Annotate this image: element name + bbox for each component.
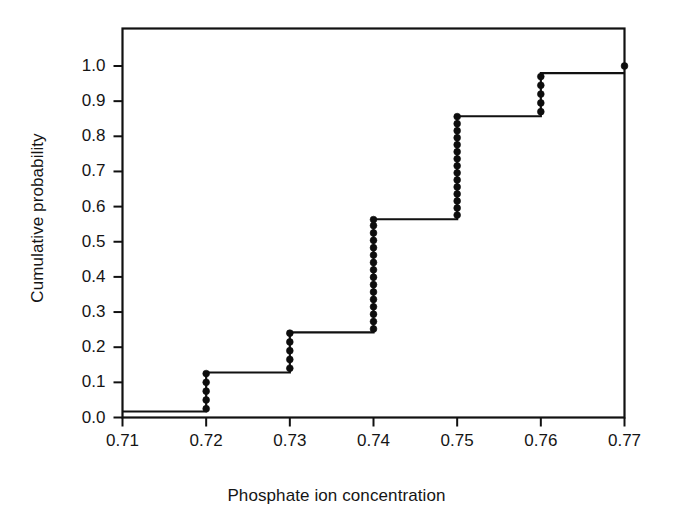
data-point-3-11: [454, 134, 461, 141]
data-point-0-1: [203, 397, 210, 404]
data-point-2-2: [370, 311, 377, 318]
data-point-1-4: [286, 330, 293, 337]
data-point-3-10: [454, 141, 461, 148]
data-point-2-8: [370, 266, 377, 273]
data-point-2-9: [370, 259, 377, 266]
data-point-4-2: [537, 91, 544, 98]
data-point-1-3: [286, 339, 293, 346]
plot-area: [0, 0, 673, 526]
data-point-0-3: [203, 379, 210, 386]
data-point-1-2: [286, 347, 293, 354]
data-point-5-0: [621, 63, 628, 70]
data-point-3-1: [454, 205, 461, 212]
data-point-3-14: [454, 113, 461, 120]
data-point-4-0: [537, 108, 544, 115]
data-point-2-7: [370, 274, 377, 281]
data-point-3-4: [454, 184, 461, 191]
data-point-0-4: [203, 370, 210, 377]
data-point-2-11: [370, 244, 377, 251]
data-point-0-2: [203, 388, 210, 395]
data-point-3-6: [454, 169, 461, 176]
data-point-0-0: [203, 405, 210, 412]
data-point-3-3: [454, 191, 461, 198]
data-point-3-8: [454, 155, 461, 162]
data-point-2-13: [370, 230, 377, 237]
data-point-2-0: [370, 326, 377, 333]
data-point-4-4: [537, 73, 544, 80]
data-point-3-0: [454, 212, 461, 219]
data-point-2-1: [370, 318, 377, 325]
data-point-3-13: [454, 120, 461, 127]
data-point-4-1: [537, 100, 544, 107]
data-point-4-3: [537, 82, 544, 89]
data-point-1-0: [286, 365, 293, 372]
data-point-2-3: [370, 303, 377, 310]
data-point-2-4: [370, 296, 377, 303]
data-point-3-12: [454, 127, 461, 134]
data-point-2-6: [370, 281, 377, 288]
cdf-chart-figure: Cumulative probability Phosphate ion con…: [0, 0, 673, 526]
data-point-2-12: [370, 237, 377, 244]
data-point-3-7: [454, 162, 461, 169]
data-point-3-5: [454, 176, 461, 183]
data-point-3-9: [454, 148, 461, 155]
data-point-2-5: [370, 289, 377, 296]
data-point-3-2: [454, 198, 461, 205]
data-point-1-1: [286, 356, 293, 363]
data-point-2-10: [370, 252, 377, 259]
data-point-2-15: [370, 216, 377, 223]
